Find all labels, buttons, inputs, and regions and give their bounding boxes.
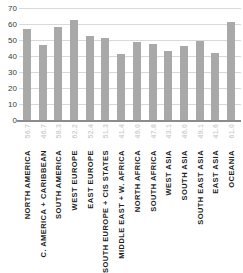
category-label-slot: SOUTH EUROPE + CIS STATES bbox=[98, 150, 114, 255]
bar-value-label: 47.8 bbox=[149, 124, 156, 138]
x-axis-category-label: SOUTH ASIA bbox=[180, 150, 189, 200]
bar bbox=[149, 44, 157, 120]
category-label-slot: SOUTH EAST ASIA bbox=[192, 150, 208, 255]
bar-series bbox=[19, 8, 241, 120]
bar bbox=[101, 38, 109, 120]
category-label-slot: NORTH AFRICA bbox=[129, 150, 145, 255]
value-label-slot: 41.4 bbox=[113, 124, 129, 148]
bar-value-label: 58.3 bbox=[55, 124, 62, 138]
x-axis-category-label: OCEANIA bbox=[227, 150, 236, 188]
value-label-slot: 62.2 bbox=[66, 124, 82, 148]
bar-slot bbox=[160, 8, 176, 120]
bar-value-label: 62.2 bbox=[71, 124, 78, 138]
x-axis-category-label: C. AMERICA + CARIBBEAN bbox=[38, 150, 47, 257]
bar bbox=[70, 20, 78, 120]
x-axis-category-label: EAST EUROPE bbox=[85, 150, 94, 209]
bar-slot bbox=[208, 8, 224, 120]
value-label-slot: 51.3 bbox=[98, 124, 114, 148]
category-label-slot: WEST EUROPE bbox=[66, 150, 82, 255]
bar-slot bbox=[113, 8, 129, 120]
category-label-slot: OCEANIA bbox=[223, 150, 239, 255]
bar-value-label: 52.4 bbox=[86, 124, 93, 138]
x-axis-category-label: EAST ASIA bbox=[211, 150, 220, 194]
bar bbox=[54, 27, 62, 120]
bar bbox=[180, 46, 188, 120]
bar-value-label: 61.0 bbox=[228, 124, 235, 138]
bar-slot bbox=[19, 8, 35, 120]
value-label-slot: 56.7 bbox=[19, 124, 35, 148]
y-axis-tick-label: 50 bbox=[8, 36, 17, 45]
bar bbox=[227, 22, 235, 120]
value-labels: 56.746.758.362.252.451.341.449.047.843.1… bbox=[19, 124, 241, 148]
bar bbox=[211, 53, 219, 120]
bar-value-label: 51.3 bbox=[102, 124, 109, 138]
x-axis-category-label: SOUTH EUROPE + CIS STATES bbox=[101, 150, 110, 273]
bar-value-label: 49.0 bbox=[133, 124, 140, 138]
y-axis-tick-label: 40 bbox=[8, 52, 17, 61]
value-label-slot: 46.0 bbox=[176, 124, 192, 148]
bar-slot bbox=[98, 8, 114, 120]
value-label-slot: 49.1 bbox=[192, 124, 208, 148]
category-label-slot: WEST ASIA bbox=[160, 150, 176, 255]
bar-slot bbox=[50, 8, 66, 120]
bar-slot bbox=[192, 8, 208, 120]
y-axis-tick-label: 30 bbox=[8, 68, 17, 77]
x-axis-category-label: MIDDLE EAST + W. AFRICA bbox=[117, 150, 126, 259]
value-label-slot: 46.7 bbox=[35, 124, 51, 148]
category-label-slot: SOUTH AFRICA bbox=[145, 150, 161, 255]
value-label-slot: 43.1 bbox=[160, 124, 176, 148]
bar-value-label: 41.4 bbox=[118, 124, 125, 138]
bar bbox=[164, 51, 172, 120]
x-axis-category-label: NORTH AFRICA bbox=[132, 150, 141, 212]
category-label-slot: EAST ASIA bbox=[208, 150, 224, 255]
bar-value-label: 43.1 bbox=[165, 124, 172, 138]
value-label-slot: 49.0 bbox=[129, 124, 145, 148]
category-label-slot: MIDDLE EAST + W. AFRICA bbox=[113, 150, 129, 255]
bar-slot bbox=[35, 8, 51, 120]
category-label-slot: EAST EUROPE bbox=[82, 150, 98, 255]
plot-area bbox=[19, 8, 241, 120]
category-label-slot: NORTH AMERICA bbox=[19, 150, 35, 255]
bar-value-label: 46.0 bbox=[181, 124, 188, 138]
category-labels: NORTH AMERICAC. AMERICA + CARIBBEANSOUTH… bbox=[19, 150, 241, 255]
category-label-slot: SOUTH AMERICA bbox=[50, 150, 66, 255]
y-axis: 010203040506070 bbox=[0, 8, 19, 120]
bar-slot bbox=[66, 8, 82, 120]
x-axis-category-label: WEST ASIA bbox=[164, 150, 173, 195]
x-axis-line bbox=[17, 120, 241, 122]
x-axis-category-label: WEST EUROPE bbox=[70, 150, 79, 210]
bar-slot bbox=[82, 8, 98, 120]
category-label-slot: C. AMERICA + CARIBBEAN bbox=[35, 150, 51, 255]
bar bbox=[133, 42, 141, 120]
x-axis-category-label: NORTH AMERICA bbox=[22, 150, 31, 219]
value-label-slot: 52.4 bbox=[82, 124, 98, 148]
bar-value-label: 49.1 bbox=[196, 124, 203, 138]
x-axis-category-label: SOUTH AFRICA bbox=[148, 150, 157, 212]
bar bbox=[117, 54, 125, 120]
bar bbox=[39, 45, 47, 120]
category-label-slot: SOUTH ASIA bbox=[176, 150, 192, 255]
x-axis-category-label: SOUTH AMERICA bbox=[54, 150, 63, 219]
y-axis-tick-label: 20 bbox=[8, 84, 17, 93]
y-axis-tick-label: 10 bbox=[8, 100, 17, 109]
bar bbox=[196, 41, 204, 120]
bar bbox=[23, 29, 31, 120]
y-axis-tick-label: 70 bbox=[8, 4, 17, 13]
bar-value-label: 46.7 bbox=[39, 124, 46, 138]
value-label-slot: 41.6 bbox=[208, 124, 224, 148]
value-label-slot: 61.0 bbox=[223, 124, 239, 148]
bar-value-label: 41.6 bbox=[212, 124, 219, 138]
bar bbox=[86, 36, 94, 120]
value-label-slot: 58.3 bbox=[50, 124, 66, 148]
y-axis-tick-label: 60 bbox=[8, 20, 17, 29]
bar-slot bbox=[145, 8, 161, 120]
bar-slot bbox=[129, 8, 145, 120]
bar-slot bbox=[223, 8, 239, 120]
value-label-slot: 47.8 bbox=[145, 124, 161, 148]
x-axis-category-label: SOUTH EAST ASIA bbox=[195, 150, 204, 225]
bar-slot bbox=[176, 8, 192, 120]
bar-value-label: 56.7 bbox=[23, 124, 30, 138]
